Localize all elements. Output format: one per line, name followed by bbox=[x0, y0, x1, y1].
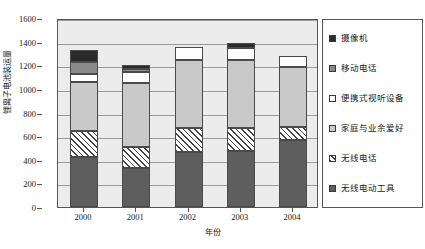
legend-label: 无线电话 bbox=[341, 154, 377, 163]
legend-swatch-icon bbox=[329, 185, 336, 192]
bar-2004[interactable] bbox=[279, 18, 307, 207]
bar-segment[interactable] bbox=[279, 127, 307, 140]
legend-label: 无线电动工具 bbox=[341, 184, 395, 193]
bar-segment[interactable] bbox=[70, 82, 98, 130]
bar-2001[interactable] bbox=[122, 18, 150, 207]
y-tick-mark bbox=[37, 66, 42, 67]
legend-swatch-icon bbox=[329, 35, 336, 42]
bar-2000[interactable] bbox=[70, 18, 98, 207]
y-tick-label: 1600 bbox=[19, 15, 36, 24]
legend-item[interactable]: 移动电话 bbox=[329, 64, 377, 73]
bar-segment[interactable] bbox=[227, 128, 255, 151]
bar-segment[interactable] bbox=[122, 83, 150, 147]
y-tick-label: 400 bbox=[23, 157, 36, 166]
y-tick-label: 200 bbox=[23, 180, 36, 189]
y-tick-mark bbox=[37, 208, 42, 209]
bar-segment[interactable] bbox=[227, 151, 255, 207]
y-tick-label: 1000 bbox=[19, 86, 36, 95]
x-tick-label: 2003 bbox=[220, 213, 260, 222]
y-tick-mark bbox=[37, 137, 42, 138]
legend-label: 摄像机 bbox=[341, 34, 368, 43]
bar-segment[interactable] bbox=[227, 48, 255, 60]
bar-2003[interactable] bbox=[227, 18, 255, 207]
x-tick-label: 2000 bbox=[63, 213, 103, 222]
y-tick-mark bbox=[37, 19, 42, 20]
legend-item[interactable]: 便携式视听设备 bbox=[329, 94, 404, 103]
legend-label: 移动电话 bbox=[341, 64, 377, 73]
x-tick-label: 2004 bbox=[272, 213, 312, 222]
bar-2002[interactable] bbox=[175, 18, 203, 207]
chart-legend: 摄像机移动电话便携式视听设备家庭与业余爱好无线电话无线电动工具 bbox=[322, 19, 423, 208]
y-tick-mark bbox=[37, 114, 42, 115]
bar-segment[interactable] bbox=[175, 60, 203, 129]
y-tick-label: 600 bbox=[23, 133, 36, 142]
bar-segment[interactable] bbox=[227, 60, 255, 129]
legend-swatch-icon bbox=[329, 65, 336, 72]
bar-segment[interactable] bbox=[122, 168, 150, 207]
bar-segment[interactable] bbox=[279, 140, 307, 207]
legend-swatch-icon bbox=[329, 155, 336, 162]
legend-item[interactable]: 家庭与业余爱好 bbox=[329, 124, 404, 133]
chart-root: 02004006008001000120014001600 锂离子电池装运量 年… bbox=[0, 0, 425, 249]
bar-segment[interactable] bbox=[70, 62, 98, 74]
y-tick-label: 1200 bbox=[19, 62, 36, 71]
y-tick-label: 1400 bbox=[19, 39, 36, 48]
legend-swatch-icon bbox=[329, 125, 336, 132]
legend-item[interactable]: 无线电话 bbox=[329, 154, 377, 163]
legend-label: 便携式视听设备 bbox=[341, 94, 404, 103]
legend-item[interactable]: 摄像机 bbox=[329, 34, 368, 43]
bar-segment[interactable] bbox=[70, 157, 98, 207]
y-tick-mark bbox=[37, 161, 42, 162]
x-tick-label: 2001 bbox=[115, 213, 155, 222]
bar-segment[interactable] bbox=[122, 65, 150, 69]
legend-swatch-icon bbox=[329, 95, 336, 102]
legend-item[interactable]: 无线电动工具 bbox=[329, 184, 395, 193]
x-tick-label: 2002 bbox=[168, 213, 208, 222]
bar-segment[interactable] bbox=[122, 69, 150, 73]
bar-segment[interactable] bbox=[175, 128, 203, 152]
bar-segment[interactable] bbox=[227, 43, 255, 47]
legend-label: 家庭与业余爱好 bbox=[341, 124, 404, 133]
y-tick-label: 0 bbox=[32, 204, 36, 213]
y-tick-label: 800 bbox=[23, 110, 36, 119]
y-tick-mark bbox=[37, 90, 42, 91]
bar-segment[interactable] bbox=[122, 72, 150, 83]
bar-segment[interactable] bbox=[70, 50, 98, 62]
y-tick-mark bbox=[37, 43, 42, 44]
x-axis-title: 年份 bbox=[0, 229, 425, 237]
bar-segment[interactable] bbox=[279, 67, 307, 127]
bar-segment[interactable] bbox=[175, 152, 203, 207]
y-tick-mark bbox=[37, 184, 42, 185]
bar-segment[interactable] bbox=[70, 131, 98, 158]
bar-segment[interactable] bbox=[122, 147, 150, 168]
plot-area bbox=[57, 19, 318, 208]
bar-segment[interactable] bbox=[70, 74, 98, 82]
y-axis-title: 锂离子电池装运量 bbox=[4, 27, 12, 137]
bar-segment[interactable] bbox=[175, 47, 203, 60]
bar-segment[interactable] bbox=[279, 56, 307, 67]
